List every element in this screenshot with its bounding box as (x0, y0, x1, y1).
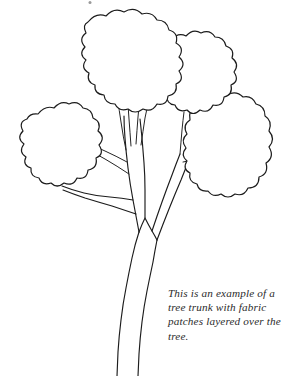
trunk-fork-notch (139, 218, 157, 240)
caption-line-1: This is an example of a (168, 286, 300, 300)
caption-line-4: tree. (168, 329, 300, 343)
foliage-cluster-left (20, 103, 103, 186)
illustration-page: This is an example of a tree trunk with … (0, 0, 307, 376)
trunk-right-edge (138, 240, 157, 376)
ink-speck (89, 1, 92, 4)
foliage-cluster-top-center (82, 9, 183, 112)
trunk-left-edge (117, 232, 139, 376)
twig-right-a (180, 112, 184, 154)
caption-text: This is an example of a tree trunk with … (168, 286, 300, 343)
branch-left-sweep-lower (63, 190, 136, 214)
caption-line-2: tree trunk with fabric (168, 300, 300, 314)
caption-line-3: patches layered over the (168, 314, 300, 328)
foliage-clusters (20, 9, 273, 197)
branch-left-sweep-upper (62, 186, 133, 200)
